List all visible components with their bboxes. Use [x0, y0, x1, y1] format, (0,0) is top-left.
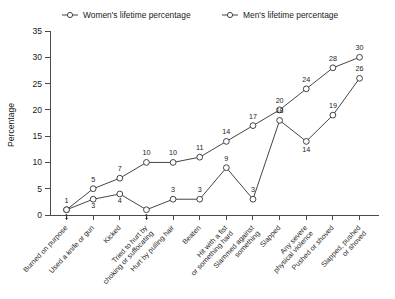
- data-point-label: 19: [329, 101, 337, 110]
- data-point: [303, 86, 309, 92]
- line-chart: Women's lifetime percentage Men's lifeti…: [0, 0, 395, 299]
- data-point: [223, 165, 229, 171]
- y-tick-label: 20: [32, 105, 42, 115]
- series-line: [67, 57, 360, 209]
- data-point: [144, 160, 150, 166]
- data-point-label: 5: [91, 175, 95, 184]
- y-tick-label: 0: [37, 210, 42, 220]
- series-women: 157101011141720242830: [64, 43, 364, 212]
- data-point: [330, 65, 336, 71]
- data-point-label: 28: [329, 54, 337, 63]
- data-point-label: 3: [251, 185, 255, 194]
- legend-label-men: Men's lifetime percentage: [243, 10, 339, 20]
- y-tick-label: 10: [32, 157, 42, 167]
- data-point: [250, 123, 256, 129]
- data-point-label: 14: [222, 127, 230, 136]
- data-point-label: 10: [169, 148, 177, 157]
- data-point-label: 4: [118, 196, 122, 205]
- x-tick-label-group: Kicked: [101, 223, 122, 245]
- chart-container: Women's lifetime percentage Men's lifeti…: [0, 0, 395, 299]
- x-tick-label-group: Slapped: [258, 223, 283, 248]
- data-point-label: 3: [171, 185, 175, 194]
- data-point: [277, 117, 283, 123]
- x-tick-label: Beaten: [180, 223, 202, 246]
- x-tick-label: Slapped: [258, 223, 283, 248]
- y-axis-ticks: 05101520253035: [32, 26, 50, 220]
- data-point-label: 24: [302, 75, 310, 84]
- data-point-label: 26: [356, 64, 364, 73]
- y-tick-label: 35: [32, 26, 42, 36]
- data-point-label: 30: [356, 43, 364, 52]
- x-axis-ticks: [67, 215, 360, 220]
- legend-item-women: Women's lifetime percentage: [62, 10, 191, 20]
- y-axis-title: Percentage: [6, 103, 16, 147]
- data-point-label: 7: [118, 164, 122, 173]
- x-tick-label-group: Beaten: [180, 223, 202, 246]
- data-point-label: 17: [249, 112, 257, 121]
- x-axis-labels: Burned on purposeUsed a knife or gunKick…: [21, 223, 368, 286]
- legend-marker-men: [227, 12, 232, 17]
- data-point: [250, 196, 256, 202]
- y-tick-label: 30: [32, 52, 42, 62]
- data-point-label: 18: [276, 106, 284, 115]
- data-point: [170, 196, 176, 202]
- data-point: [90, 186, 96, 192]
- y-tick-label: 5: [37, 184, 42, 194]
- y-tick-label: 25: [32, 79, 42, 89]
- data-point: [117, 175, 123, 181]
- x-tick-label: Kicked: [101, 223, 122, 245]
- data-point: [223, 139, 229, 145]
- y-tick-label: 15: [32, 131, 42, 141]
- data-point-label: 11: [196, 143, 203, 152]
- data-point-label: 14: [302, 145, 310, 154]
- legend-label-women: Women's lifetime percentage: [83, 10, 191, 20]
- data-point: [170, 160, 176, 166]
- data-point-label: 9: [224, 154, 228, 163]
- data-point-label: 3: [91, 201, 95, 210]
- chart-legend: Women's lifetime percentage Men's lifeti…: [62, 10, 339, 20]
- data-point: [357, 75, 363, 81]
- data-point: [197, 154, 203, 160]
- x-tick-label: Burned on purpose: [21, 223, 69, 274]
- series-line: [67, 78, 360, 209]
- data-point-label: 3: [198, 185, 202, 194]
- data-point-label: 10: [142, 148, 150, 157]
- legend-item-men: Men's lifetime percentage: [222, 10, 339, 20]
- data-point: [197, 196, 203, 202]
- data-point-label: 1: [65, 212, 69, 221]
- data-point-label: 20: [276, 96, 284, 105]
- data-point: [303, 139, 309, 145]
- x-tick-label-group: Burned on purpose: [21, 223, 69, 274]
- data-point-label: 1: [65, 196, 69, 205]
- data-point: [330, 112, 336, 118]
- series-men: 1341339318141926: [64, 64, 364, 220]
- legend-marker-women: [67, 12, 72, 17]
- data-point: [357, 54, 363, 60]
- data-point-label: 1: [144, 212, 148, 221]
- data-series-layer: 1571010111417202428301341339318141926: [64, 43, 364, 220]
